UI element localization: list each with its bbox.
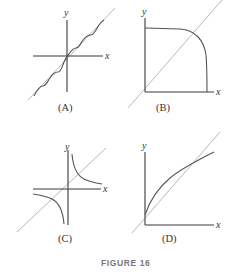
x-label-d: x: [215, 219, 221, 230]
x-label-b: x: [215, 86, 221, 97]
caption-b: (B): [156, 102, 171, 114]
caption-c: (C): [58, 233, 73, 245]
y-label-a: y: [63, 7, 69, 18]
caption-a: (A): [58, 102, 73, 114]
diagonal-line-c: [17, 148, 106, 232]
hyperbola-branch-lower: [33, 194, 64, 224]
figure-title: FIGURE 16: [101, 258, 150, 268]
x-label-a: x: [104, 50, 110, 61]
y-label-d: y: [141, 140, 147, 151]
panel-d: y x (D): [132, 132, 221, 245]
panel-a: y x (A): [28, 7, 115, 114]
y-label-c: y: [64, 141, 70, 152]
hyperbola-branch-upper: [72, 154, 102, 184]
curve-b: [145, 28, 207, 92]
x-label-c: x: [102, 183, 108, 194]
panel-b: y x (B): [128, 0, 222, 114]
panel-c: y x (C): [17, 141, 108, 245]
y-label-b: y: [141, 6, 147, 17]
figure-canvas: y x (A) y x (B) y x (C) y x (D) FIGURE 1…: [0, 0, 240, 277]
caption-d: (D): [162, 233, 177, 245]
